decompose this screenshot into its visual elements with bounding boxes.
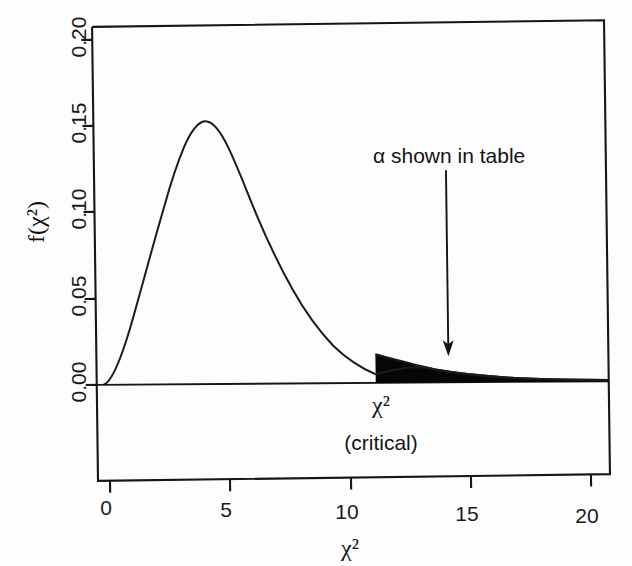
x-tick-label-1: 5 [220,498,232,521]
y-tick-label-4: 0.00 [67,362,90,403]
plot-box-border [92,20,610,481]
x-tick-label-3: 15 [455,502,478,525]
annotation-arrow-shaft [446,170,448,347]
x-tick-label-0: 0 [100,496,112,519]
y-tick-label-3: 0.05 [67,276,90,317]
plot-frame [81,20,610,493]
x-tick-label-4: 20 [575,504,598,527]
y-axis-title: f(χ²) [23,201,49,243]
chart-canvas: 0.20 0.15 0.10 0.05 0.00 f(χ²) 0 5 10 15… [0,0,632,566]
y-tick-label-0: 0.20 [67,17,90,58]
y-tick-label-2: 0.10 [67,189,90,230]
x-tick-label-2: 10 [335,500,358,523]
y-tick-label-1: 0.15 [67,103,90,144]
chi-square-density-curve [100,116,608,387]
x-axis-title: χ² [340,535,359,561]
chi-square-distribution-figure: 0.20 0.15 0.10 0.05 0.00 f(χ²) 0 5 10 15… [0,0,632,566]
critical-word-label: (critical) [344,431,418,454]
alpha-annotation-label: α shown in table [373,144,525,167]
critical-symbol-label: χ² [371,392,390,418]
